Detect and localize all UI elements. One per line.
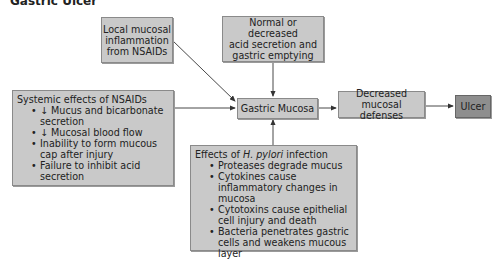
list-item: Bacteria penetrates gastric cells and we… xyxy=(209,226,352,259)
node-line: Local mucosal xyxy=(103,24,171,35)
effects-list: Proteases degrade mucus Cytokines cause … xyxy=(195,160,352,259)
node-heading: Systemic effects of NSAIDs xyxy=(17,94,169,105)
node-ulcer: Ulcer xyxy=(455,95,491,118)
list-item: Cytokines cause inflammatory changes in … xyxy=(209,171,352,204)
heading-prefix: Effects of xyxy=(195,149,243,160)
list-item: Failure to inhibit acid secretion xyxy=(31,160,169,182)
node-decreased-defenses: Decreased mucosal defenses xyxy=(338,91,425,118)
node-acid-secretion: Normal or decreased acid secretion and g… xyxy=(222,16,324,62)
node-line: defenses xyxy=(339,110,424,121)
node-line: Normal or decreased xyxy=(223,17,323,39)
node-line: acid secretion and xyxy=(223,39,323,50)
list-item: Cytotoxins cause epithelial cell injury … xyxy=(209,204,352,226)
list-item: ↓ Mucus and bicarbonate secretion xyxy=(31,105,169,127)
node-label: Gastric Mucosa xyxy=(241,103,314,114)
list-item: ↓ Mucosal blood flow xyxy=(31,127,169,138)
node-gastric-mucosa: Gastric Mucosa xyxy=(237,98,318,119)
node-label: Ulcer xyxy=(461,101,486,112)
list-item: Inability to form mucous cap after injur… xyxy=(31,138,169,160)
list-item: Proteases degrade mucus xyxy=(209,160,352,171)
node-line: gastric emptying xyxy=(223,50,323,61)
heading-organism: H. pylori xyxy=(243,149,283,160)
node-line: Decreased mucosal xyxy=(339,88,424,110)
node-systemic-nsaids: Systemic effects of NSAIDs ↓ Mucus and b… xyxy=(12,90,174,186)
node-h-pylori: Effects of H. pylori infection Proteases… xyxy=(190,145,357,251)
effects-list: ↓ Mucus and bicarbonate secretion ↓ Muco… xyxy=(17,105,169,182)
node-line: inflammation xyxy=(103,35,171,46)
node-heading: Effects of H. pylori infection xyxy=(195,149,352,160)
node-line: from NSAIDs xyxy=(103,46,171,57)
heading-suffix: infection xyxy=(283,149,328,160)
node-local-inflammation: Local mucosal inflammation from NSAIDs xyxy=(101,17,173,63)
